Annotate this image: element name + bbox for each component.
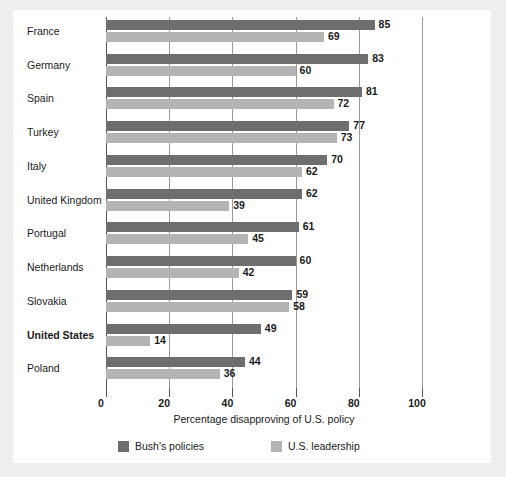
bar	[106, 268, 239, 278]
bar-value-label: 72	[338, 98, 350, 108]
bar-group: 6239	[106, 186, 422, 220]
axis-tick-label: 60	[285, 397, 297, 409]
category-label: France	[13, 25, 92, 37]
legend-item: U.S. leadership	[271, 440, 360, 452]
axis-tick-label: 100	[408, 397, 426, 409]
axis-tick	[106, 388, 107, 397]
gridline	[422, 17, 423, 388]
bar-value-label: 73	[341, 132, 353, 142]
bar-value-label: 77	[353, 120, 365, 130]
bar-group: 6042	[106, 253, 422, 287]
bar-group: 7773	[106, 118, 422, 152]
bar	[106, 66, 296, 76]
category-label: Italy	[13, 160, 92, 172]
axis-tick-label: 40	[222, 397, 234, 409]
axis-tick	[232, 388, 233, 397]
bar	[106, 234, 248, 244]
bar	[106, 20, 375, 30]
bar	[106, 357, 245, 367]
category-label: Turkey	[13, 126, 92, 138]
bar-value-label: 49	[265, 323, 277, 333]
bar	[106, 201, 229, 211]
bar-group: 4436	[106, 354, 422, 388]
legend-label: U.S. leadership	[288, 440, 360, 452]
legend-swatch-icon	[271, 441, 282, 452]
bar-value-label: 59	[296, 289, 308, 299]
bar-value-label: 62	[306, 166, 318, 176]
bar	[106, 133, 337, 143]
bar-value-label: 60	[300, 255, 312, 265]
bar	[106, 32, 324, 42]
bar	[106, 167, 302, 177]
bar-group: 5958	[106, 287, 422, 321]
axis-tick	[359, 388, 360, 397]
axis-tick	[422, 388, 423, 397]
chart-panel: FranceGermanySpainTurkeyItalyUnited King…	[13, 10, 491, 463]
bar-group: 8569	[106, 17, 422, 51]
bar-value-label: 36	[224, 368, 236, 378]
legend-label: Bush's policies	[135, 440, 204, 452]
bar	[106, 189, 302, 199]
bar-value-label: 42	[243, 267, 255, 277]
category-label: Germany	[13, 59, 92, 71]
bar-value-label: 81	[366, 86, 378, 96]
bar	[106, 87, 362, 97]
legend-item: Bush's policies	[118, 440, 204, 452]
bar-value-label: 61	[303, 221, 315, 231]
category-label: United States	[13, 329, 92, 341]
bar	[106, 290, 292, 300]
bar	[106, 302, 289, 312]
bar-value-label: 60	[300, 65, 312, 75]
bar-group: 4914	[106, 321, 422, 355]
bar-group: 8360	[106, 51, 422, 85]
axis-tick	[169, 388, 170, 397]
bar-value-label: 58	[293, 301, 305, 311]
bar	[106, 54, 368, 64]
bar	[106, 336, 150, 346]
bar	[106, 222, 299, 232]
category-label: Spain	[13, 92, 92, 104]
axis-tick-label: 80	[348, 397, 360, 409]
bar	[106, 121, 349, 131]
category-label: Poland	[13, 362, 92, 374]
category-label: Slovakia	[13, 295, 92, 307]
category-label: Portugal	[13, 227, 92, 239]
bar	[106, 324, 261, 334]
bar-group: 6145	[106, 219, 422, 253]
bar-value-label: 39	[233, 200, 245, 210]
bar	[106, 369, 220, 379]
bar-value-label: 45	[252, 233, 264, 243]
bar-value-label: 85	[379, 19, 391, 29]
axis-tick	[296, 388, 297, 397]
category-label: Netherlands	[13, 261, 92, 273]
bar	[106, 99, 334, 109]
bar-group: 8172	[106, 84, 422, 118]
chart-legend: Bush's policiesU.S. leadership	[106, 440, 436, 456]
bar-value-label: 69	[328, 31, 340, 41]
bar-value-label: 70	[331, 154, 343, 164]
bar-value-label: 14	[154, 335, 166, 345]
legend-swatch-icon	[118, 441, 129, 452]
bar-value-label: 83	[372, 53, 384, 63]
bar	[106, 256, 296, 266]
bar	[106, 155, 327, 165]
category-axis-labels: FranceGermanySpainTurkeyItalyUnited King…	[13, 17, 101, 388]
x-axis-title: Percentage disapproving of U.S. policy	[106, 413, 422, 425]
value-axis: 020406080100	[106, 388, 422, 410]
bar-group: 7062	[106, 152, 422, 186]
category-label: United Kingdom	[13, 194, 92, 206]
bar-value-label: 44	[249, 356, 261, 366]
axis-tick-label: 0	[98, 397, 104, 409]
plot-area: 8569836081727773706262396145604259584914…	[106, 17, 422, 388]
axis-tick-label: 20	[158, 397, 170, 409]
bar-value-label: 62	[306, 188, 318, 198]
